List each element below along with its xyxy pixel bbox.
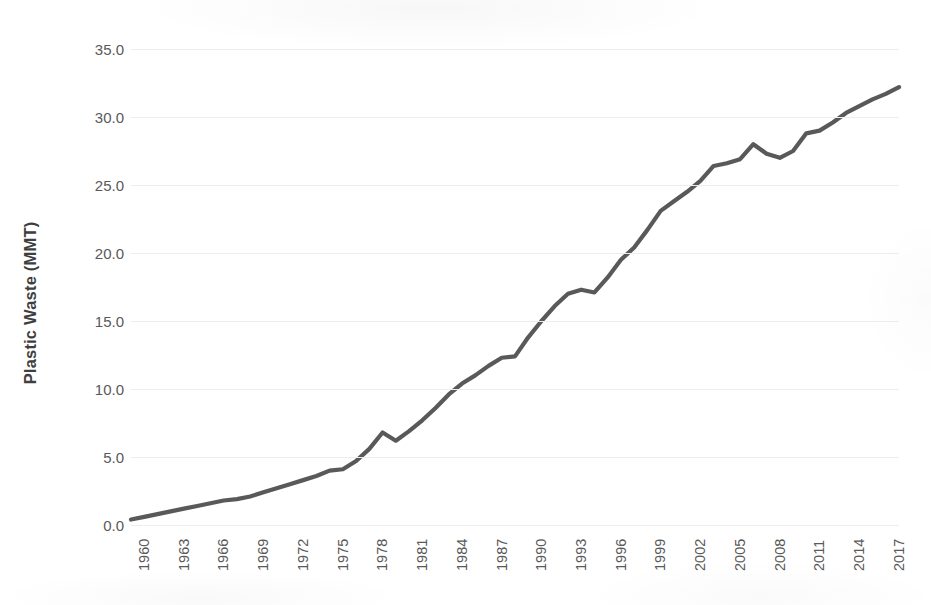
x-axis-tick-label: 1963 xyxy=(177,539,192,571)
x-axis-tick-label: 1993 xyxy=(574,539,589,571)
x-axis-tick-label: 1972 xyxy=(296,539,311,571)
x-axis-tick-label: 1960 xyxy=(137,539,152,571)
x-axis-tick-label: 2011 xyxy=(812,540,827,571)
x-axis-tick-label: 1999 xyxy=(653,539,668,571)
x-axis-tick-labels: 1960196319661969197219751978198119841987… xyxy=(0,0,931,605)
x-axis-tick-label: 1978 xyxy=(375,539,390,571)
x-axis-tick-label: 1990 xyxy=(534,539,549,571)
x-axis-tick-label: 1981 xyxy=(415,539,430,571)
x-axis-tick-label: 2002 xyxy=(693,539,708,571)
x-axis-tick-label: 2014 xyxy=(852,539,867,571)
x-axis-tick-label: 1969 xyxy=(256,539,271,571)
x-axis-tick-label: 2008 xyxy=(773,539,788,571)
x-axis-tick-label: 2017 xyxy=(892,539,907,571)
x-axis-tick-label: 1984 xyxy=(455,539,470,571)
x-axis-tick-label: 2005 xyxy=(733,539,748,571)
x-axis-tick-label: 1996 xyxy=(614,539,629,571)
chart-figure: Plastic Waste (MMT) 0.05.010.015.020.025… xyxy=(0,0,931,605)
x-axis-tick-label: 1966 xyxy=(216,539,231,571)
x-axis-tick-label: 1987 xyxy=(495,539,510,571)
x-axis-tick-label: 1975 xyxy=(336,539,351,571)
